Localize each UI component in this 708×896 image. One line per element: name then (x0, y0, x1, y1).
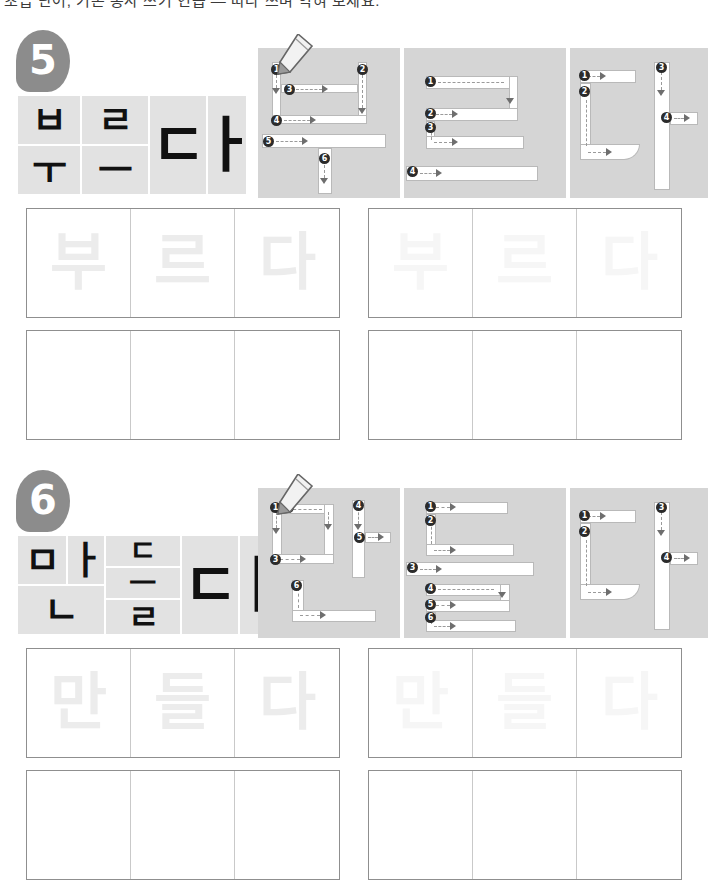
practice-grid-blank-right-2[interactable] (368, 770, 682, 880)
jamo-tile: ㅜ (18, 146, 80, 194)
practice-cell[interactable] (369, 771, 473, 879)
stroke-arrow-right (452, 110, 458, 118)
jamo-glyph: ㅏ (208, 96, 246, 194)
practice-cell[interactable] (27, 331, 131, 439)
trace-glyph: 다 (259, 232, 316, 294)
practice-cell[interactable]: 르 (473, 209, 577, 317)
stroke-order-panel-deul: 1 2 3 4 5 6 (404, 488, 566, 638)
jamo-tile: ㄷ (106, 536, 180, 566)
practice-grid-trace-right-2[interactable]: 만 들 다 (368, 648, 682, 758)
stroke-segment (426, 502, 508, 514)
trace-glyph: 부 (50, 232, 107, 294)
practice-cell[interactable] (473, 771, 577, 879)
jamo-tile: ㅁ (18, 536, 66, 584)
practice-cell[interactable]: 들 (473, 649, 577, 757)
jamo-glyph: ㄹ (106, 600, 180, 634)
trace-glyph: 르 (496, 232, 553, 294)
jamo-tile: ㄷ (150, 96, 206, 194)
jamo-glyph: ㅡ (82, 146, 148, 194)
practice-cell[interactable]: 부 (369, 209, 473, 317)
trace-glyph: 들 (496, 672, 553, 734)
trace-glyph: 다 (601, 672, 658, 734)
practice-grid-trace-left[interactable]: 부 르 다 (26, 208, 340, 318)
practice-grid-blank-right[interactable] (368, 330, 682, 440)
stroke-arrow-right (600, 512, 606, 520)
stroke-path-dash (586, 100, 587, 146)
trace-glyph: 르 (154, 232, 211, 294)
stroke-path-dash (661, 72, 662, 90)
trace-glyph: 만 (50, 672, 107, 734)
practice-grid-trace-left-2[interactable]: 만 들 다 (26, 648, 340, 758)
stroke-arrow-right (302, 137, 308, 145)
stroke-segment (654, 62, 670, 190)
practice-cell[interactable]: 다 (235, 649, 339, 757)
practice-grid-trace-right[interactable]: 부 르 다 (368, 208, 682, 318)
stroke-order-panel-da: 1 2 3 4 (570, 48, 708, 198)
badge-number: 5 (16, 30, 70, 92)
jamo-glyph: ㄷ (106, 536, 180, 566)
stroke-arrow-right (320, 611, 326, 619)
stroke-number-dot: 1 (579, 70, 590, 81)
pencil-icon (274, 474, 314, 516)
jamo-tile: ㅡ (82, 146, 148, 194)
trace-glyph: 다 (601, 232, 658, 294)
stroke-number-dot: 3 (407, 562, 418, 573)
jamo-tile: ㅡ (106, 568, 180, 598)
stroke-arrow-down (358, 108, 366, 114)
jamo-glyph: ㅡ (106, 568, 180, 598)
stroke-path-dash (434, 550, 450, 551)
stroke-number-dot: 4 (425, 583, 436, 594)
practice-grid-blank-left[interactable] (26, 330, 340, 440)
stroke-segment (292, 610, 376, 622)
practice-cell[interactable] (473, 331, 577, 439)
stroke-order-panel-da-2: 1 2 3 4 (570, 488, 708, 638)
stroke-path-dash (276, 141, 302, 142)
practice-cell[interactable] (27, 771, 131, 879)
stroke-arrow-down (657, 90, 665, 96)
stroke-arrow-right (450, 503, 456, 511)
practice-cell[interactable] (235, 331, 339, 439)
practice-cell[interactable] (577, 771, 681, 879)
stroke-arrow-down (506, 98, 514, 104)
stroke-number-dot: 1 (425, 76, 436, 87)
jamo-glyph: ㄹ (82, 96, 148, 144)
stroke-number-dot: 1 (579, 510, 590, 521)
practice-cell[interactable]: 다 (235, 209, 339, 317)
stroke-arrow-right (452, 138, 458, 146)
practice-cell[interactable] (577, 331, 681, 439)
stroke-order-panel-bu: 1 2 3 4 5 6 (258, 48, 400, 198)
stroke-arrow-right (450, 601, 456, 609)
stroke-path-dash (588, 592, 606, 593)
stroke-number-dot: 2 (579, 526, 590, 537)
stroke-path-dash (434, 142, 452, 143)
jamo-tile: ㅂ (18, 96, 80, 144)
stroke-arrow-right (450, 546, 456, 554)
practice-cell[interactable]: 부 (27, 209, 131, 317)
stroke-path-dash (586, 540, 587, 586)
practice-cell[interactable]: 르 (131, 209, 235, 317)
jamo-tile: ㄹ (82, 96, 148, 144)
stroke-arrow-right (450, 622, 456, 630)
clipped-header-strip: 초급 단어, 기본 동사 쓰기 연습 — 따라 쓰며 익혀 보세요. (0, 0, 708, 9)
practice-cell[interactable]: 다 (577, 649, 681, 757)
stroke-arrow-down (498, 592, 506, 598)
stroke-number-dot: 1 (425, 501, 436, 512)
stroke-path-dash (420, 173, 436, 174)
stroke-arrow-down (354, 524, 362, 530)
jamo-glyph: ㅂ (18, 96, 80, 144)
practice-grid-blank-left-2[interactable] (26, 770, 340, 880)
pencil-icon (274, 34, 314, 76)
practice-cell[interactable]: 만 (369, 649, 473, 757)
practice-cell[interactable]: 들 (131, 649, 235, 757)
stroke-number-dot: 4 (661, 552, 672, 563)
practice-cell[interactable] (369, 331, 473, 439)
stroke-arrow-right (310, 116, 316, 124)
practice-cell[interactable]: 만 (27, 649, 131, 757)
stroke-arrow-right (378, 533, 384, 541)
practice-cell[interactable] (131, 331, 235, 439)
stroke-arrow-down (324, 524, 332, 530)
practice-cell[interactable]: 다 (577, 209, 681, 317)
practice-cell[interactable] (131, 771, 235, 879)
stroke-number-dot: 2 (579, 86, 590, 97)
practice-cell[interactable] (235, 771, 339, 879)
